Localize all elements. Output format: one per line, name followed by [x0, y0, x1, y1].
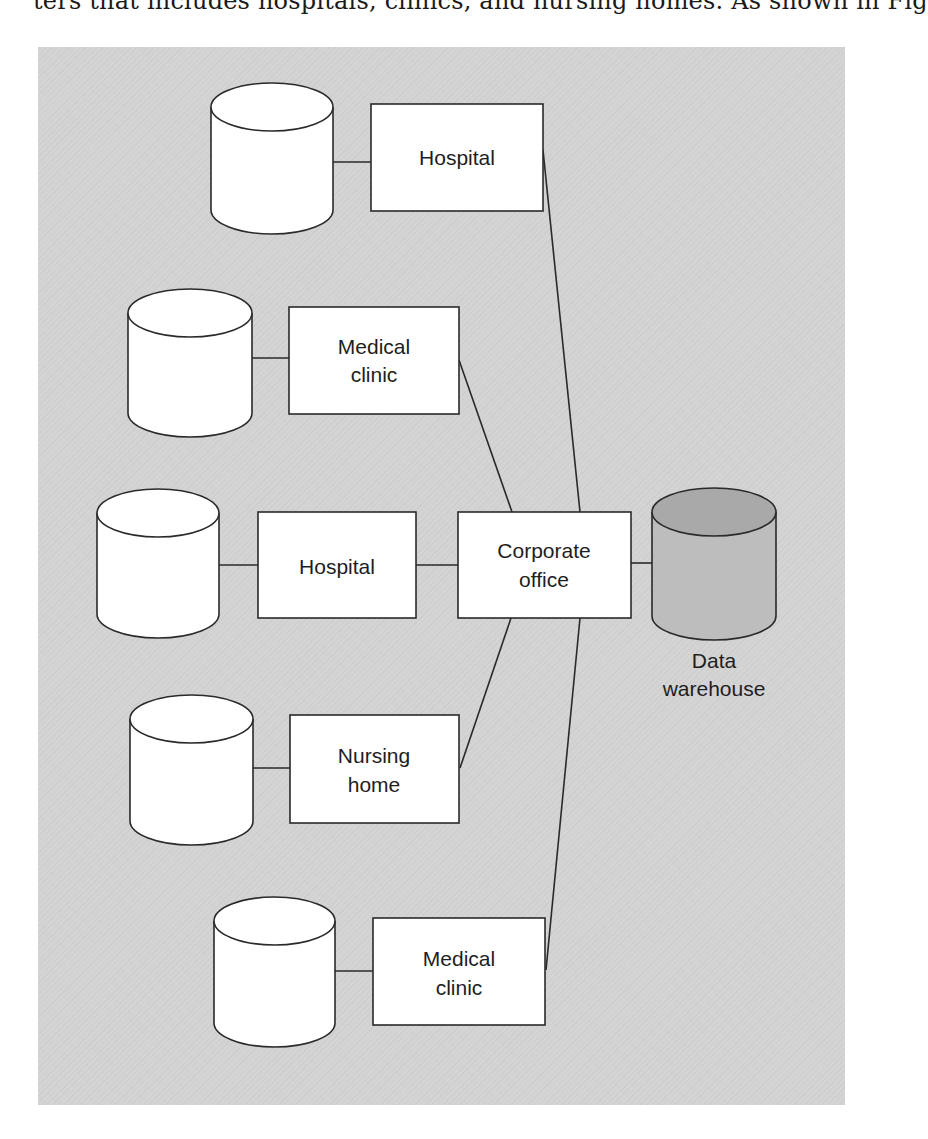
- data-warehouse-cylinder-icon: [652, 488, 776, 640]
- site-3-label: Hospital: [299, 555, 375, 578]
- data-warehouse-label-line1: Data: [692, 649, 737, 672]
- database-cylinder-icon: [211, 83, 333, 234]
- site-2-label-line1: Medical: [338, 335, 410, 358]
- site-2-label-line2: clinic: [351, 363, 398, 386]
- database-cylinder-icon: [214, 897, 335, 1047]
- site-4-label-line1: Nursing: [338, 744, 410, 767]
- database-cylinder-icon: [97, 489, 219, 638]
- edge-site1-corporate: [543, 150, 580, 512]
- database-cylinder-icon: [128, 289, 252, 437]
- site-4-label-line2: home: [348, 773, 401, 796]
- edge-site2-corporate: [459, 360, 512, 512]
- site-1-label: Hospital: [419, 146, 495, 169]
- data-warehouse-label-line2: warehouse: [662, 677, 766, 700]
- corporate-office-box: [458, 512, 631, 618]
- site-5-label-line1: Medical: [423, 947, 495, 970]
- corporate-label-line2: office: [519, 568, 569, 591]
- site-5-label-line2: clinic: [436, 976, 483, 999]
- site-box-nursing-home: [290, 715, 459, 823]
- site-box-medical-clinic-2: [373, 918, 545, 1025]
- edge-site5-corporate: [546, 618, 580, 970]
- site-box-medical-clinic-1: [289, 307, 459, 414]
- database-cylinder-icon: [130, 695, 253, 845]
- edge-site4-corporate: [460, 618, 511, 768]
- corporate-label-line1: Corporate: [497, 539, 590, 562]
